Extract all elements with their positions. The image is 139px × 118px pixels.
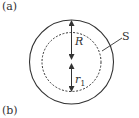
radius-r1-label: r1 bbox=[75, 74, 85, 88]
r-subscript: 1 bbox=[80, 79, 85, 88]
panel-label-a: (a) bbox=[2, 1, 17, 12]
surface-S-label: S bbox=[122, 31, 130, 42]
radius-R-label: R bbox=[75, 36, 83, 47]
gauss-sphere-diagram bbox=[0, 0, 139, 118]
panel-label-b: (b) bbox=[2, 105, 18, 116]
